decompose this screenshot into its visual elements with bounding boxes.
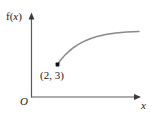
y-axis-label-fx-close: ): [18, 10, 22, 22]
x-axis-arrowhead-icon: [134, 94, 141, 100]
y-axis-arrowhead-icon: [29, 13, 35, 20]
y-axis-label-fx: f(x): [6, 11, 22, 22]
function-curve: [58, 32, 140, 65]
math-figure-canvas: f(x) (2, 3) O x: [0, 0, 154, 117]
point-label-2-3: (2, 3): [40, 70, 64, 81]
point-marker-2-3: [56, 63, 60, 67]
x-axis-label: x: [141, 100, 146, 111]
origin-label: O: [20, 96, 28, 107]
